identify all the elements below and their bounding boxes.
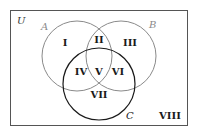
universe-label: U — [17, 15, 26, 26]
set-label-a: A — [40, 21, 48, 32]
set-label-b: B — [148, 19, 156, 30]
region-label-i: I — [63, 37, 68, 48]
region-label-vi: VI — [111, 66, 125, 77]
region-label-ii: II — [94, 34, 104, 45]
region-label-iv: IV — [75, 66, 88, 77]
region-label-viii: VIII — [158, 110, 181, 121]
set-label-c: C — [126, 110, 134, 121]
region-label-v: V — [94, 66, 103, 77]
region-label-iii: III — [123, 37, 137, 48]
circle-c — [63, 48, 135, 120]
region-label-vii: VII — [89, 89, 107, 100]
venn-diagram: U A B C I II III IV V VI VII VIII — [0, 0, 199, 130]
